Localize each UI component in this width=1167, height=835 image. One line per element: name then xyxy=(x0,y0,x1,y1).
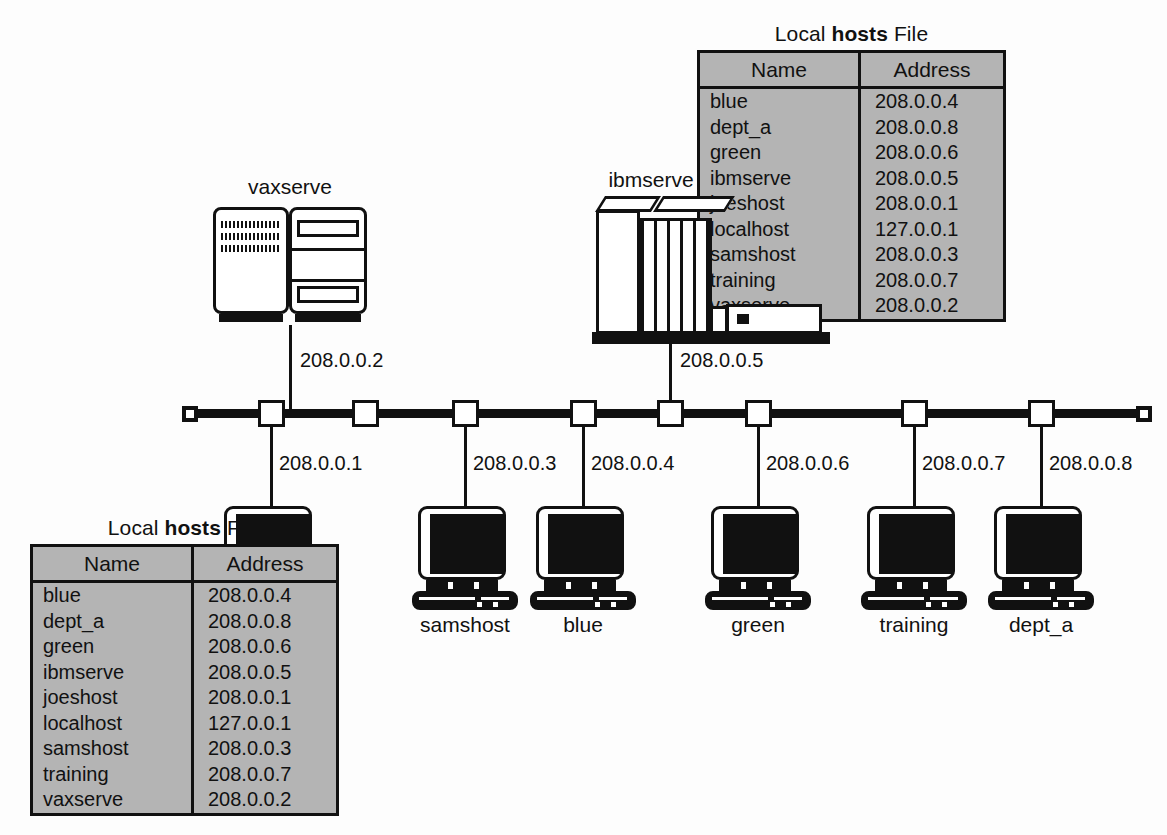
monitor-stand xyxy=(1002,580,1074,591)
ip-label-ibmserve: 208.0.0.5 xyxy=(680,349,763,372)
stand-notch xyxy=(897,582,902,589)
screen xyxy=(723,514,796,574)
table-row: ibmserve 208.0.0.5 xyxy=(32,660,338,686)
drop-line-training xyxy=(913,424,916,506)
key-row xyxy=(712,597,768,600)
device-label-ibmserve: ibmserve xyxy=(596,168,706,192)
ip-label-vaxserve: 208.0.0.2 xyxy=(300,349,383,372)
cell-host-name: dept_a xyxy=(699,115,860,141)
stand-notch xyxy=(1050,582,1055,589)
table-row: localhost 127.0.0.1 xyxy=(32,711,338,737)
table-row: blue 208.0.0.4 xyxy=(32,582,338,609)
hosts-title-prefix: Local xyxy=(108,516,165,539)
table-row: training 208.0.0.7 xyxy=(32,762,338,788)
monitor-icon xyxy=(418,506,506,580)
ibmserve-console-button xyxy=(737,314,749,324)
cell-host-address: 208.0.0.4 xyxy=(860,88,1005,115)
bus-tap-vaxserve xyxy=(352,400,379,427)
host-label-green: green xyxy=(705,613,811,637)
vaxserve-drive-slot xyxy=(297,286,359,303)
column-header-address: Address xyxy=(193,546,338,582)
key-gap xyxy=(770,602,775,607)
hosts-table: Name Address blue 208.0.0.4 dept_a 208.0… xyxy=(30,544,339,816)
key-row xyxy=(419,597,475,600)
table-row: green 208.0.0.6 xyxy=(699,140,1005,166)
hosts-title-bold: hosts xyxy=(831,22,888,45)
cell-host-address: 208.0.0.1 xyxy=(860,191,1005,217)
key-gap xyxy=(1069,602,1074,607)
bus-tap-ibmserve xyxy=(657,400,684,427)
hosts-title-suffix: File xyxy=(888,22,928,45)
column-header-address: Address xyxy=(860,52,1005,88)
ibmserve-left-cabinet xyxy=(596,210,640,334)
cell-host-name: ibmserve xyxy=(699,166,860,192)
key-row xyxy=(481,597,509,600)
stand-notch xyxy=(767,582,772,589)
keyboard-icon xyxy=(412,591,518,610)
stand-notch xyxy=(923,582,928,589)
bus-terminator-left xyxy=(182,406,198,422)
monitor-stand xyxy=(426,580,498,591)
drop-line-joeshost xyxy=(270,424,273,506)
stand-notch xyxy=(474,582,479,589)
vaxserve-base xyxy=(295,314,361,322)
stand-notch xyxy=(566,582,571,589)
table-row: green 208.0.0.6 xyxy=(32,634,338,660)
screen xyxy=(430,514,503,574)
cell-host-address: 208.0.0.5 xyxy=(193,660,338,686)
monitor-stand xyxy=(544,580,616,591)
table-row: joeshost 208.0.0.1 xyxy=(32,685,338,711)
ip-label-dept-a: 208.0.0.8 xyxy=(1049,452,1132,475)
ip-label-samshost: 208.0.0.3 xyxy=(473,452,556,475)
host-label-blue: blue xyxy=(530,613,636,637)
key-gap xyxy=(1053,602,1058,607)
cell-host-address: 127.0.0.1 xyxy=(860,217,1005,243)
cell-host-address: 208.0.0.2 xyxy=(860,293,1005,320)
stand-notch xyxy=(448,582,453,589)
key-row xyxy=(599,597,627,600)
hosts-title-prefix: Local xyxy=(775,22,832,45)
host-label-training: training xyxy=(861,613,967,637)
key-row xyxy=(774,597,802,600)
bus-tap-joeshost xyxy=(258,400,285,427)
workstation-training xyxy=(861,506,967,610)
cell-host-address: 208.0.0.4 xyxy=(193,582,338,609)
keyboard-icon xyxy=(861,591,967,610)
key-row xyxy=(1057,597,1085,600)
drop-line-dept-a xyxy=(1040,424,1043,506)
vaxserve-drive-slot xyxy=(297,220,359,237)
keyboard-icon xyxy=(705,591,811,610)
cell-host-name: joeshost xyxy=(32,685,193,711)
stand-notch xyxy=(592,582,597,589)
key-gap xyxy=(493,602,498,607)
monitor-stand xyxy=(719,580,791,591)
column-header-name: Name xyxy=(699,52,860,88)
monitor-icon xyxy=(867,506,955,580)
screen xyxy=(1006,514,1079,574)
cell-host-name: localhost xyxy=(32,711,193,737)
key-row xyxy=(868,597,924,600)
cell-host-name: training xyxy=(32,762,193,788)
key-row xyxy=(930,597,958,600)
cell-host-name: blue xyxy=(699,88,860,115)
key-gap xyxy=(926,602,931,607)
cell-host-name: dept_a xyxy=(32,609,193,635)
cell-host-name: samshost xyxy=(32,736,193,762)
ibmserve-tape-bank xyxy=(638,218,712,334)
table-row: ibmserve 208.0.0.5 xyxy=(699,166,1005,192)
cell-host-address: 208.0.0.8 xyxy=(860,115,1005,141)
cell-host-address: 208.0.0.6 xyxy=(193,634,338,660)
cell-host-address: 208.0.0.1 xyxy=(193,685,338,711)
bus-tap-blue xyxy=(570,400,597,427)
hosts-file-title-top: Local hosts File xyxy=(697,22,1006,46)
cell-host-address: 208.0.0.8 xyxy=(193,609,338,635)
bus-tap-dept-a xyxy=(1028,400,1055,427)
drop-line-vaxserve xyxy=(289,325,292,410)
table-row: dept_a 208.0.0.8 xyxy=(32,609,338,635)
cell-host-address: 208.0.0.6 xyxy=(860,140,1005,166)
cell-host-name: green xyxy=(699,140,860,166)
cell-host-address: 208.0.0.3 xyxy=(860,242,1005,268)
workstation-dept-a xyxy=(988,506,1094,610)
ibmserve-cabinet-top xyxy=(653,196,735,212)
key-gap xyxy=(786,602,791,607)
